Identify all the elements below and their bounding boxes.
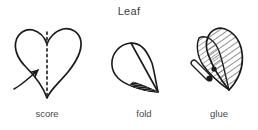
leaf-half-front bbox=[206, 28, 242, 90]
step-score-illustration bbox=[14, 29, 81, 98]
step-label-fold: fold bbox=[109, 108, 179, 119]
step-label-score: score bbox=[12, 108, 82, 119]
score-arrow bbox=[14, 70, 38, 89]
glue-tube-tip bbox=[206, 75, 212, 81]
step-glue-illustration bbox=[194, 28, 242, 90]
leaf-craft-instruction-diagram: Leaf bbox=[0, 0, 258, 130]
glue-drop bbox=[211, 66, 216, 71]
step-label-glue: glue bbox=[184, 108, 254, 119]
step-fold-illustration bbox=[112, 43, 158, 92]
heart-outline bbox=[15, 29, 81, 98]
